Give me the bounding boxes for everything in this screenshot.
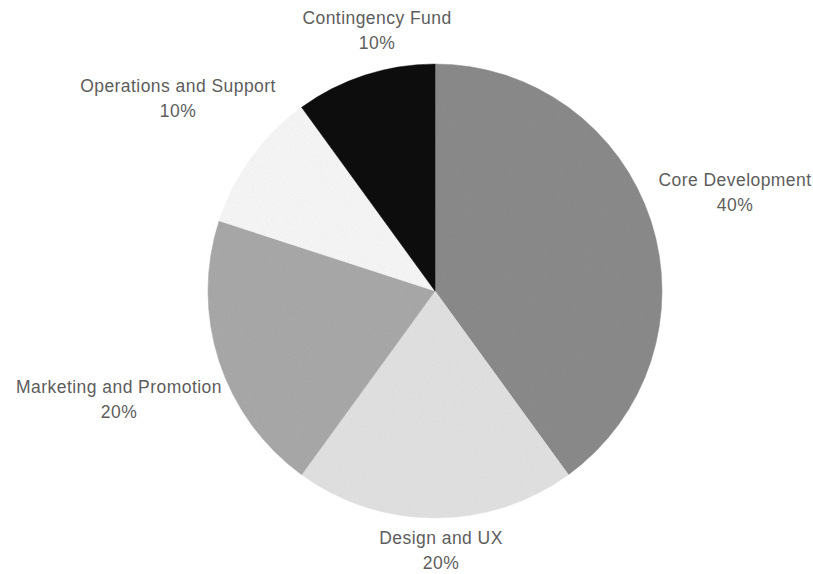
pie-label-core-development-name: Core Development bbox=[645, 168, 813, 193]
pie-label-contingency-fund-value: 10% bbox=[272, 31, 482, 56]
pie-label-design-and-ux-name: Design and UX bbox=[346, 526, 536, 551]
pie-label-core-development-value: 40% bbox=[645, 193, 813, 218]
pie-label-operations-and-support-value: 10% bbox=[54, 99, 302, 124]
pie-label-marketing-and-promotion-value: 20% bbox=[0, 400, 238, 425]
pie-label-contingency-fund: Contingency Fund 10% bbox=[272, 6, 482, 56]
pie-label-design-and-ux-value: 20% bbox=[346, 551, 536, 574]
pie-label-operations-and-support: Operations and Support 10% bbox=[54, 74, 302, 124]
pie-label-operations-and-support-name: Operations and Support bbox=[54, 74, 302, 99]
pie-label-design-and-ux: Design and UX 20% bbox=[346, 526, 536, 574]
pie-chart: Contingency Fund 10% Operations and Supp… bbox=[0, 0, 813, 574]
pie-label-marketing-and-promotion-name: Marketing and Promotion bbox=[0, 375, 238, 400]
pie-label-contingency-fund-name: Contingency Fund bbox=[272, 6, 482, 31]
pie-label-marketing-and-promotion: Marketing and Promotion 20% bbox=[0, 375, 238, 425]
pie-label-core-development: Core Development 40% bbox=[645, 168, 813, 218]
